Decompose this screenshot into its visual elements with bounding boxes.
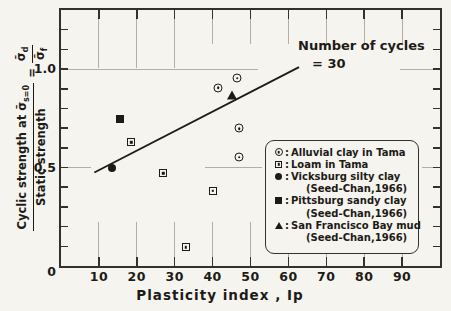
x-tick-label: 90 — [388, 269, 416, 284]
legend-label: Alluvial clay in Tama — [291, 147, 406, 158]
x-axis-title: Plasticity index , Ip — [108, 287, 332, 303]
legend-source: (Seed-Chan,1966) — [272, 183, 414, 195]
legend: :Alluvial clay in Tama:Loam in Tama:Vick… — [265, 140, 419, 254]
y-tick-label: 0 — [23, 264, 56, 279]
legend-item: :Vicksburg silty clay — [272, 171, 414, 183]
filled-circle-icon — [272, 173, 285, 180]
legend-colon: : — [285, 147, 289, 158]
x-tick-label: 70 — [312, 269, 340, 284]
filled-circle-icon — [275, 173, 282, 180]
legend-item: :Loam in Tama — [272, 158, 414, 170]
legend-item: :Alluvial clay in Tama — [272, 146, 414, 158]
legend-item: :Pittsburg sandy clay — [272, 195, 414, 207]
point-square-dot — [127, 138, 135, 146]
point-filled-square — [116, 115, 124, 123]
x-tick-label: 80 — [350, 269, 378, 284]
legend-label: Vicksburg silty clay — [291, 171, 400, 182]
x-tick-label: 20 — [123, 269, 151, 284]
point-square-dot — [209, 187, 217, 195]
point-filled-circle — [108, 164, 116, 172]
point-circle-dot — [214, 83, 223, 92]
point-circle-dot — [233, 74, 242, 83]
filled-triangle-icon — [272, 222, 285, 229]
x-tick-label: 10 — [85, 269, 113, 284]
annotation-line1: Number of cycles — [298, 37, 425, 55]
y-tick-label: 0.5 — [23, 160, 56, 175]
legend-colon: : — [285, 159, 289, 170]
y-title-main-fraction: Cyclic strength at σ̄s=0 Static strength — [16, 83, 48, 232]
y-tick-label: 1.0 — [23, 61, 56, 76]
circle-dot-icon — [275, 148, 283, 156]
filled-triangle-icon — [275, 222, 283, 229]
circle-dot-icon — [272, 148, 285, 156]
legend-colon: : — [285, 171, 289, 182]
legend-colon: : — [285, 195, 289, 206]
filled-square-icon — [272, 197, 285, 204]
legend-label: Pittsburg sandy clay — [291, 195, 406, 206]
y-title-numerator: Cyclic strength at σ̄s=0 — [16, 83, 33, 232]
legend-label: Loam in Tama — [291, 159, 368, 170]
square-dot-icon — [275, 161, 282, 168]
annotation-number-of-cycles: Number of cycles = 30 — [298, 37, 425, 72]
filled-square-icon — [275, 197, 282, 204]
x-tick-label: 40 — [199, 269, 227, 284]
point-square-dot — [182, 243, 190, 251]
point-filled-triangle — [227, 90, 237, 99]
point-square-dot — [159, 169, 167, 177]
x-tick-label: 60 — [274, 269, 302, 284]
legend-item: :San Francisco Bay mud — [272, 219, 414, 231]
legend-label: San Francisco Bay mud — [291, 220, 421, 231]
point-circle-dot — [235, 124, 244, 133]
square-dot-icon — [272, 161, 285, 168]
plot-area: Number of cycles = 30 :Alluvial clay in … — [59, 8, 442, 268]
sigma-f: σ̄f — [33, 48, 49, 60]
x-tick-label: 30 — [161, 269, 189, 284]
legend-source: (Seed-Chan,1966) — [272, 207, 414, 219]
legend-colon: : — [285, 220, 289, 231]
y-title-denominator: Static strength — [34, 108, 48, 206]
annotation-line2: = 30 — [312, 55, 425, 73]
point-circle-dot — [235, 153, 244, 162]
y-axis-title: Cyclic strength at σ̄s=0 Static strength… — [6, 22, 58, 254]
x-tick-label: 50 — [237, 269, 265, 284]
legend-source: (Seed-Chan,1966) — [272, 231, 414, 243]
